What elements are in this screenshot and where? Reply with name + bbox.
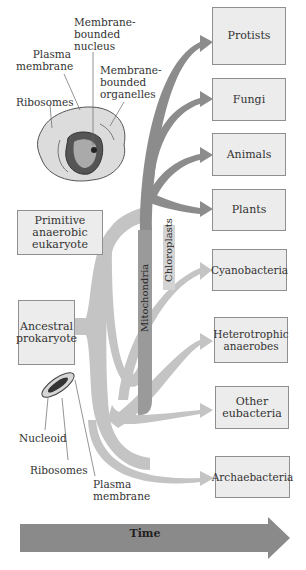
time-label: Time xyxy=(0,527,290,540)
box-cyanobacteria: Cyanobacteria xyxy=(212,249,287,291)
box-ancestral-prokaryote: Ancestral prokaryote xyxy=(18,300,75,365)
label-ribosomes-prokaryote: Ribosomes xyxy=(30,464,88,476)
box-fungi: Fungi xyxy=(212,78,286,121)
box-animals: Animals xyxy=(212,133,286,176)
label-membrane-bounded-nucleus: Membrane- bounded nucleus xyxy=(74,16,135,52)
label-chloroplasts: Chloroplasts xyxy=(163,222,174,282)
box-archaebacteria: Archaebacteria xyxy=(215,456,290,498)
label-plasma-membrane-prokaryote: Plasma membrane xyxy=(93,478,150,502)
box-heterotrophic-anaerobes: Heterotrophicanaerobes xyxy=(214,317,288,363)
prokaryote-cell-illustration xyxy=(38,368,95,476)
box-primitive-anaerobic-eukaryote: Primitive anaerobic eukaryote xyxy=(17,210,103,255)
box-protists: Protists xyxy=(212,7,286,65)
box-other-eubacteria: Othereubacteria xyxy=(215,386,289,429)
label-nucleoid: Nucleoid xyxy=(19,432,67,444)
label-mitochondria: Mitochondria xyxy=(139,232,150,332)
label-membrane-bounded-organelles: Membrane- bounded organelles xyxy=(100,64,161,100)
label-ribosomes-eukaryote: Ribosomes xyxy=(16,96,74,108)
box-plants: Plants xyxy=(212,189,286,231)
label-plasma-membrane-eukaryote: Plasma membrane xyxy=(16,48,71,72)
